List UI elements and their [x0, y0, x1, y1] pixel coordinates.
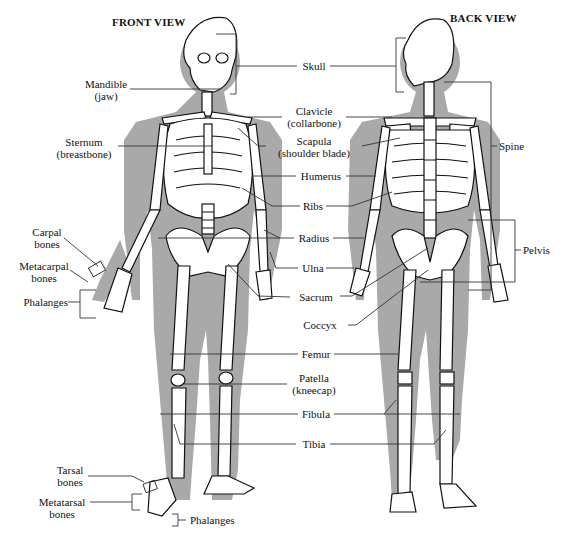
label-metacarpal-bones: Metacarpal bones	[14, 260, 74, 284]
label-text: Mandible	[80, 78, 132, 90]
label-phalanges-hand: Phalanges	[10, 296, 68, 308]
label-text: Skull	[298, 60, 330, 72]
label-tarsal-bones: Tarsal bones	[52, 464, 88, 488]
label-text: bones	[52, 476, 88, 488]
label-text: bones	[24, 238, 70, 250]
label-text: bones	[34, 508, 90, 520]
label-tibia: Tibia	[298, 438, 330, 450]
label-text: Spine	[499, 140, 524, 152]
label-phalanges-foot: Phalanges	[190, 514, 235, 526]
label-spine: Spine	[499, 140, 524, 152]
label-text: bones	[14, 272, 74, 284]
label-text: (breastbone)	[48, 148, 120, 160]
label-text: Tibia	[298, 438, 330, 450]
label-text: Scapula	[266, 135, 362, 147]
label-text: Coccyx	[294, 319, 346, 331]
label-metatarsal-bones: Metatarsal bones	[34, 496, 90, 520]
label-skull: Skull	[298, 60, 330, 72]
label-scapula: Scapula (shoulder blade)	[266, 135, 362, 159]
front-view-title: FRONT VIEW	[112, 16, 185, 28]
label-text: (kneecap)	[286, 384, 342, 396]
label-text: Femur	[298, 348, 334, 360]
label-text: Phalanges	[10, 296, 68, 308]
label-text: (shoulder blade)	[266, 147, 362, 159]
label-fibula: Fibula	[298, 408, 334, 420]
label-text: Ribs	[300, 200, 326, 212]
label-radius: Radius	[295, 232, 333, 244]
label-text: Phalanges	[190, 514, 235, 526]
label-coccyx: Coccyx	[294, 319, 346, 331]
skeleton-diagram: FRONT VIEW BACK VIEW Mandible (jaw) Ster…	[0, 0, 567, 536]
label-femur: Femur	[298, 348, 334, 360]
label-text: Clavicle	[280, 105, 348, 117]
label-text: Fibula	[298, 408, 334, 420]
label-text: Tarsal	[52, 464, 88, 476]
label-clavicle: Clavicle (collarbone)	[280, 105, 348, 129]
label-carpal-bones: Carpal bones	[24, 226, 70, 250]
label-text: Ulna	[300, 262, 326, 274]
label-text: Humerus	[296, 170, 346, 182]
back-view-title: BACK VIEW	[450, 12, 517, 24]
label-text: Radius	[295, 232, 333, 244]
label-text: Patella	[286, 372, 342, 384]
label-text: Pelvis	[523, 244, 550, 256]
label-sacrum: Sacrum	[292, 291, 340, 303]
label-text: (jaw)	[80, 90, 132, 102]
label-patella: Patella (kneecap)	[286, 372, 342, 396]
label-text: Sternum	[48, 136, 120, 148]
label-text: (collarbone)	[280, 117, 348, 129]
label-sternum: Sternum (breastbone)	[48, 136, 120, 160]
label-text: Sacrum	[292, 291, 340, 303]
label-text: Metatarsal	[34, 496, 90, 508]
label-humerus: Humerus	[296, 170, 346, 182]
label-pelvis: Pelvis	[523, 244, 550, 256]
label-text: Metacarpal	[14, 260, 74, 272]
label-ulna: Ulna	[300, 262, 326, 274]
label-mandible: Mandible (jaw)	[80, 78, 132, 102]
label-text: Carpal	[24, 226, 70, 238]
label-ribs: Ribs	[300, 200, 326, 212]
